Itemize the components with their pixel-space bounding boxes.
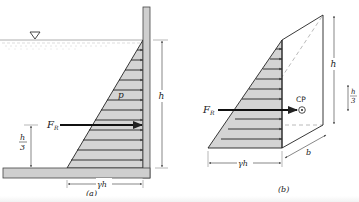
pressure-prism-front	[208, 40, 282, 148]
third-height-dimension-b: h 3	[348, 85, 357, 111]
width-dimension: b	[285, 135, 326, 158]
center-of-pressure: CP	[296, 95, 306, 113]
free-surface-icon	[30, 32, 40, 39]
svg-text:CP: CP	[296, 95, 306, 104]
water-surface	[0, 40, 143, 49]
wall	[143, 7, 150, 178]
svg-text:h: h	[159, 91, 165, 101]
force-label-b: FR	[202, 104, 215, 116]
prism-edges	[282, 15, 323, 148]
svg-text:γh: γh	[97, 180, 107, 189]
panel-b: FR CP h h 3 b	[202, 15, 357, 194]
svg-text:h: h	[351, 88, 356, 96]
cropped-caption	[0, 196, 359, 202]
svg-text:γh: γh	[238, 159, 248, 168]
svg-text:h: h	[331, 59, 337, 69]
height-dimension: h	[153, 40, 168, 168]
panel-a: FR p h h 3 γh (a)	[0, 7, 168, 198]
force-label: FR	[46, 119, 59, 131]
third-height-dimension: h 3	[19, 125, 38, 167]
base-dimension-b: γh	[208, 151, 282, 168]
svg-text:b: b	[306, 148, 311, 157]
pressure-label: p	[118, 90, 124, 100]
svg-text:h: h	[20, 133, 25, 142]
base-plate	[3, 168, 150, 178]
svg-text:3: 3	[351, 97, 356, 105]
svg-text:3: 3	[20, 143, 25, 152]
hydrostatic-pressure-figure: FR p h h 3 γh (a)	[0, 0, 359, 202]
height-dimension-b: h	[329, 16, 339, 124]
pressure-distribution	[67, 40, 143, 168]
panel-b-label: (b)	[278, 185, 289, 194]
base-dimension: γh	[67, 178, 143, 189]
